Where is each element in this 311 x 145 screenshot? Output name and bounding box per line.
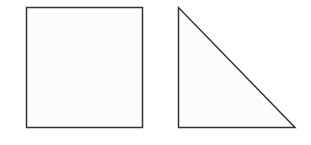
diagram-canvas [0, 0, 311, 145]
square-shape [27, 8, 143, 128]
right-triangle-shape [179, 8, 296, 128]
